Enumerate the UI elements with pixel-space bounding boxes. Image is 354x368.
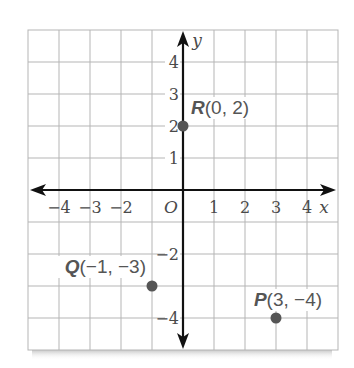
y-tick-label: 3 — [169, 85, 179, 104]
x-tick-label: 2 — [240, 198, 250, 217]
x-tick-label: 4 — [302, 198, 312, 217]
point-label-q: Q(−1, −3) — [65, 256, 146, 277]
point-label-r: R(0, 2) — [191, 97, 249, 118]
x-tick-label: −2 — [109, 198, 133, 217]
y-tick-label: 4 — [169, 53, 179, 72]
point-label-p: P(3, −4) — [254, 289, 322, 310]
coordinate-plane: −4−3−212344321−2−4Oxy R(0, 2)Q(−1, −3)P(… — [0, 0, 354, 368]
origin-label: O — [164, 197, 178, 217]
x-tick-label: −3 — [78, 198, 102, 217]
y-tick-label: −2 — [155, 245, 179, 264]
point-q — [147, 281, 158, 292]
point-p — [271, 313, 282, 324]
x-tick-label: 1 — [209, 198, 219, 217]
grid-shadow — [32, 350, 332, 360]
x-tick-label: −4 — [47, 198, 71, 217]
y-tick-label: 2 — [169, 117, 179, 136]
x-axis-label: x — [319, 197, 329, 217]
y-tick-label: 1 — [169, 149, 179, 168]
point-r — [178, 121, 189, 132]
y-tick-label: −4 — [155, 309, 179, 328]
y-axis-label: y — [191, 30, 202, 50]
x-tick-label: 3 — [271, 198, 281, 217]
